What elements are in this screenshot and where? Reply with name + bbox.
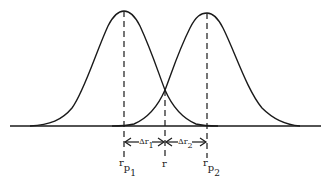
peak1-label: rp1 [119, 157, 136, 178]
peak2-label: rp2 [203, 157, 220, 178]
delta1-label: Δr1 [139, 137, 154, 150]
peak-curve-2 [112, 13, 300, 126]
delta2-label: Δr2 [178, 137, 193, 150]
two-peak-diagram: Δr1 Δr2 rp1 r rp2 [0, 0, 328, 193]
crossing-label: r [162, 158, 167, 169]
